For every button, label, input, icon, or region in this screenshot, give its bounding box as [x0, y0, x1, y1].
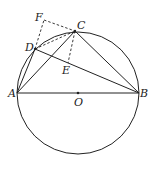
label-c: C: [77, 19, 86, 32]
segment-ad: [17, 49, 35, 93]
point-o: [77, 92, 80, 95]
segment-db: [35, 49, 139, 93]
segment-fc: [44, 20, 75, 31]
segment-df: [35, 20, 44, 49]
label-f: F: [34, 11, 43, 24]
label-b: B: [139, 87, 148, 100]
segment-bc: [75, 31, 139, 93]
segment-dc: [35, 31, 75, 49]
point-c: [74, 30, 76, 32]
geometry-diagram: A B O C D E F: [0, 0, 157, 170]
label-e: E: [61, 64, 70, 77]
segment-ce: [68, 31, 75, 63]
label-d: D: [24, 41, 34, 54]
label-o: O: [74, 96, 83, 109]
label-a: A: [7, 87, 16, 100]
point-d: [34, 48, 36, 50]
